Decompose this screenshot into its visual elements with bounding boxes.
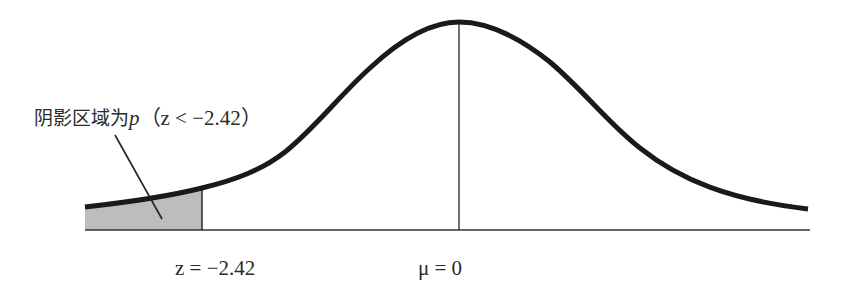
- annotation-variable: p: [129, 106, 140, 130]
- mean-label: μ = 0: [418, 256, 462, 281]
- normal-distribution-diagram: [0, 0, 849, 300]
- shaded-area-annotation: 阴影区域为p（z < −2.42）: [34, 101, 262, 131]
- z-cutoff-label: z = −2.42: [175, 256, 255, 281]
- annotation-condition: （z < −2.42）: [140, 106, 262, 130]
- annotation-prefix: 阴影区域为: [34, 107, 129, 129]
